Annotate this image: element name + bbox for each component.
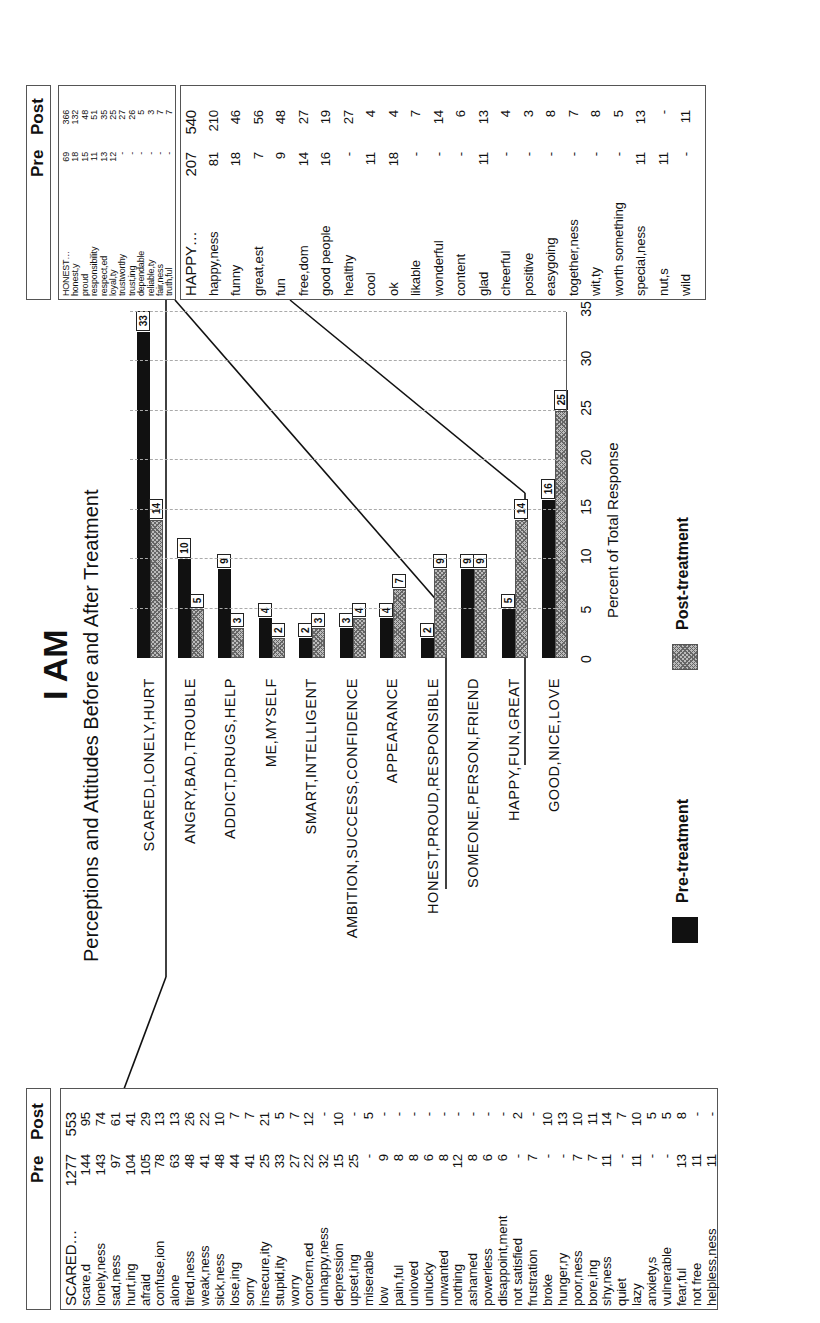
table-row: tired,ness4826 <box>183 1086 197 1306</box>
row-pre-value: 8 <box>437 1154 451 1188</box>
row-post-value: - <box>481 1112 495 1146</box>
table-row: HAPPY…207540 <box>184 83 198 296</box>
gridline <box>130 558 566 559</box>
row-word: sad,ness <box>109 1255 123 1306</box>
table-row: anxiety,s-5 <box>645 1086 659 1306</box>
row-pre-value: - <box>556 1154 570 1188</box>
row-pre-value: 6 <box>422 1154 436 1188</box>
row-word: frustration <box>526 1250 540 1306</box>
table-row: powerless6- <box>481 1086 495 1306</box>
legend-post-label: Post-treatment <box>674 517 692 630</box>
row-word: hurt,ing <box>124 1264 138 1306</box>
row-post-value: - <box>657 110 671 144</box>
table-row: shy,ness1114 <box>600 1086 614 1306</box>
row-word: free,dom <box>297 246 311 296</box>
row-pre-value: - <box>432 152 446 186</box>
table-row: scare,d14495 <box>79 1086 93 1306</box>
row-word: cool <box>364 273 378 296</box>
row-pre-value: 144 <box>79 1154 93 1188</box>
row-pre-value: 143 <box>94 1154 108 1188</box>
table-row: SCARED…1277553 <box>64 1086 78 1306</box>
row-word: not free <box>690 1263 704 1306</box>
row-word: lonely,ness <box>94 1243 108 1306</box>
row-post-value: 41 <box>124 1112 138 1146</box>
row-pre-value: 15 <box>332 1154 346 1188</box>
row-word: unwanted <box>437 1250 451 1306</box>
bar-value-label: 5 <box>190 594 204 608</box>
row-pre-value: 7 <box>252 152 266 186</box>
category-label: ADDICT,DRUGS,HELP <box>222 678 238 839</box>
bar-value-label: 4 <box>352 603 366 617</box>
row-post-value: 14 <box>432 110 446 144</box>
row-pre-value: - <box>541 1154 555 1188</box>
row-word: poor,ness <box>571 1251 585 1306</box>
row-pre-value: 78 <box>153 1154 167 1188</box>
bar-post <box>393 589 406 658</box>
row-word: afraid <box>139 1274 153 1306</box>
row-word: sick,ness <box>213 1254 227 1306</box>
bar-post <box>434 569 447 658</box>
row-word: unhappy,ness <box>317 1227 331 1306</box>
row-pre-value: 11 <box>630 1154 644 1188</box>
row-pre-value: - <box>567 152 581 186</box>
gridline <box>130 311 566 312</box>
table-row: hunger,ry-13 <box>556 1086 570 1306</box>
category-label: GOOD,NICE,LOVE <box>546 678 562 812</box>
row-pre-value: 8 <box>407 1154 421 1188</box>
row-post-value: 553 <box>64 1112 78 1146</box>
header-pre: Pre <box>28 150 48 177</box>
row-post-value: 7 <box>567 110 581 144</box>
scared-table: SCARED…1277553scare,d14495lonely,ness143… <box>60 1088 718 1310</box>
row-post-value: 27 <box>297 110 311 144</box>
row-post-value: - <box>496 1112 510 1146</box>
row-pre-value: 48 <box>183 1154 197 1188</box>
category-label: ANGRY,BAD,TROUBLE <box>182 678 198 844</box>
bar-value-label: 3 <box>311 613 325 627</box>
table-row: depression1510 <box>332 1086 346 1306</box>
row-word: broke <box>541 1274 555 1306</box>
table-row: worry277 <box>288 1086 302 1306</box>
row-word: wit,ty <box>589 267 603 296</box>
axis-tick-label: 20 <box>578 450 594 466</box>
row-word: miserable <box>362 1251 376 1306</box>
category-label: SMART,INTELLIGENT <box>303 678 319 835</box>
row-word: content <box>454 254 468 296</box>
row-word: alone <box>168 1275 182 1306</box>
gridline <box>130 410 566 411</box>
row-post-value: 26 <box>183 1112 197 1146</box>
row-post-value: 5 <box>273 1112 287 1146</box>
table-row: pain,ful8- <box>392 1086 406 1306</box>
axis-tick-label: 25 <box>578 400 594 416</box>
row-word: nut,s <box>657 268 671 296</box>
table-row: bore,ing711 <box>586 1086 600 1306</box>
row-post-value: 8 <box>589 110 603 144</box>
row-post-value: 8 <box>544 110 558 144</box>
row-post-value: 4 <box>499 110 513 144</box>
header-post: Post <box>28 98 48 135</box>
table-row: likable-7 <box>409 83 423 296</box>
legend-post-swatch <box>672 644 698 670</box>
row-pre-value: 11 <box>477 152 491 186</box>
table-row: cool114 <box>364 83 378 296</box>
row-post-value: 7 <box>288 1112 302 1146</box>
category-label: AMBITION,SUCCESS,CONFIDENCE <box>344 678 360 938</box>
row-word: bore,ing <box>586 1260 600 1306</box>
table-row: frustration7- <box>526 1086 540 1306</box>
row-post-value: - <box>317 1112 331 1146</box>
row-pre-value: 105 <box>139 1154 153 1188</box>
row-pre-value: 6 <box>496 1154 510 1188</box>
row-pre-value: - <box>409 152 423 186</box>
row-word: glad <box>477 272 491 296</box>
table-row: unhappy,ness32- <box>317 1086 331 1306</box>
row-word: ok <box>387 282 401 296</box>
row-post-value: - <box>705 1112 719 1146</box>
table-row: sorry417 <box>243 1086 257 1306</box>
axis-tick-label: 0 <box>578 655 594 663</box>
row-post-value: - <box>466 1112 480 1146</box>
bar-post <box>474 569 487 658</box>
table-row: cheerful-4 <box>499 83 513 296</box>
row-post-value: 7 <box>243 1112 257 1146</box>
row-word: hunger,ry <box>556 1253 570 1306</box>
axis-tick-label: 5 <box>578 606 594 614</box>
row-post-value: 29 <box>139 1112 153 1146</box>
